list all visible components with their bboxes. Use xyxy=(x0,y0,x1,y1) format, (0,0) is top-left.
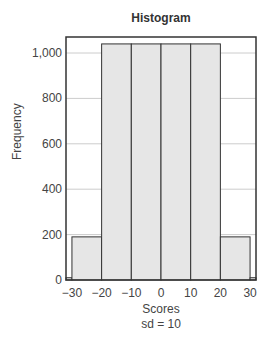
x-tick-label: −30 xyxy=(57,286,87,300)
y-tick-label: 0 xyxy=(55,273,62,287)
x-tick-label: 20 xyxy=(205,286,235,300)
x-tick-label: 10 xyxy=(176,286,206,300)
histogram-bar xyxy=(191,44,221,280)
histogram-bar xyxy=(220,237,250,280)
y-tick-label: 200 xyxy=(42,228,62,242)
y-tick-label: 800 xyxy=(42,91,62,105)
x-tick-label: −20 xyxy=(87,286,117,300)
x-axis-label: Scores sd = 10 xyxy=(66,302,256,332)
sd-annotation: sd = 10 xyxy=(66,317,256,332)
histogram-bar xyxy=(102,44,132,280)
y-tick-label: 1,000 xyxy=(32,46,62,60)
histogram-bar xyxy=(161,44,191,280)
x-tick-label: −10 xyxy=(116,286,146,300)
y-tick-label: 600 xyxy=(42,137,62,151)
x-tick-label: 30 xyxy=(235,286,265,300)
x-tick-label: 0 xyxy=(146,286,176,300)
histogram-bar xyxy=(131,44,161,280)
histogram-bar xyxy=(72,237,102,280)
x-axis-title: Scores xyxy=(66,302,256,317)
y-tick-label: 400 xyxy=(42,182,62,196)
